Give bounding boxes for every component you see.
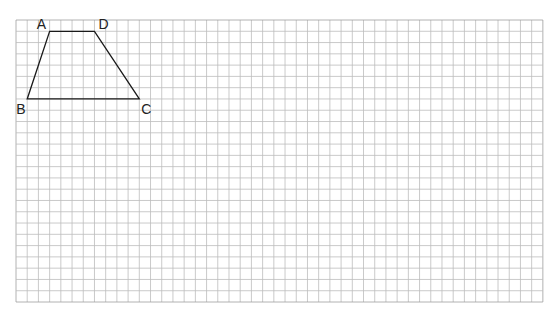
- vertex-label-d: D: [98, 16, 108, 32]
- vertex-label-a: A: [37, 16, 47, 32]
- vertex-label-b: B: [16, 101, 25, 117]
- grid-diagram: A D C B: [0, 0, 559, 319]
- grid-lines: [16, 20, 543, 302]
- vertex-label-c: C: [141, 101, 151, 117]
